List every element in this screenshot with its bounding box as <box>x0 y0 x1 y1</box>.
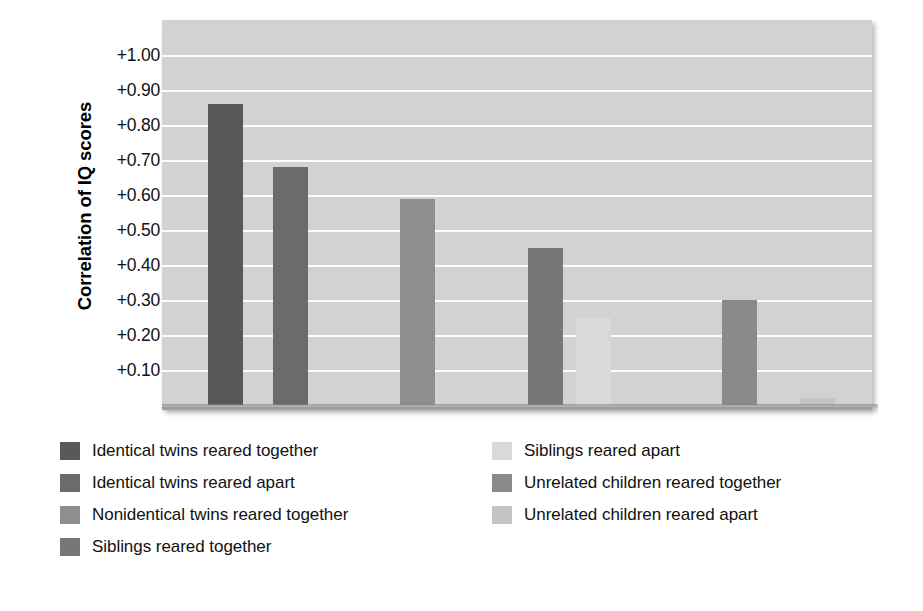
legend-item-label: Siblings reared apart <box>524 441 680 461</box>
legend-item-label: Identical twins reared apart <box>92 473 295 493</box>
legend-item[interactable]: Siblings reared apart <box>492 436 781 466</box>
y-tick-label: +0.80 <box>92 115 160 136</box>
bar[interactable] <box>273 167 308 405</box>
y-tick-label: +0.70 <box>92 150 160 171</box>
chart-legend: Identical twins reared togetherIdentical… <box>60 436 900 576</box>
y-tick-label: +0.50 <box>92 220 160 241</box>
gridline <box>162 195 872 197</box>
bar[interactable] <box>528 248 563 406</box>
legend-color-swatch-icon <box>492 506 512 524</box>
gridline <box>162 335 872 337</box>
legend-color-swatch-icon <box>60 442 80 460</box>
plot-area <box>162 20 872 410</box>
legend-item-label: Unrelated children reared apart <box>524 505 758 525</box>
legend-item[interactable]: Identical twins reared apart <box>60 468 348 498</box>
y-tick-label: +0.30 <box>92 290 160 311</box>
legend-item[interactable]: Unrelated children reared apart <box>492 500 781 530</box>
gridline <box>162 300 872 302</box>
y-tick-label: +0.60 <box>92 185 160 206</box>
legend-item[interactable]: Unrelated children reared together <box>492 468 781 498</box>
legend-item[interactable]: Identical twins reared together <box>60 436 348 466</box>
bar[interactable] <box>400 199 435 406</box>
plot-drop-shadow <box>162 404 878 413</box>
iq-correlation-bar-chart: Correlation of IQ scores +1.00+0.90+0.80… <box>0 0 923 611</box>
gridline <box>162 90 872 92</box>
bar[interactable] <box>208 104 243 405</box>
legend-column-left: Identical twins reared togetherIdentical… <box>60 436 348 564</box>
legend-item[interactable]: Siblings reared together <box>60 532 348 562</box>
gridline <box>162 55 872 57</box>
gridline <box>162 160 872 162</box>
y-tick-label: +0.40 <box>92 255 160 276</box>
y-tick-label: +0.20 <box>92 325 160 346</box>
legend-item-label: Siblings reared together <box>92 537 271 557</box>
y-tick-label: +0.90 <box>92 80 160 101</box>
legend-color-swatch-icon <box>60 506 80 524</box>
legend-color-swatch-icon <box>60 474 80 492</box>
legend-item-label: Identical twins reared together <box>92 441 318 461</box>
legend-color-swatch-icon <box>492 474 512 492</box>
bar[interactable] <box>576 318 611 406</box>
legend-item[interactable]: Nonidentical twins reared together <box>60 500 348 530</box>
legend-color-swatch-icon <box>492 442 512 460</box>
gridline <box>162 230 872 232</box>
y-tick-label: +1.00 <box>92 45 160 66</box>
y-axis-tick-labels: +1.00+0.90+0.80+0.70+0.60+0.50+0.40+0.30… <box>92 20 160 410</box>
gridline <box>162 125 872 127</box>
legend-color-swatch-icon <box>60 538 80 556</box>
bar[interactable] <box>722 300 757 405</box>
legend-item-label: Unrelated children reared together <box>524 473 781 493</box>
legend-column-right: Siblings reared apartUnrelated children … <box>492 436 781 532</box>
legend-item-label: Nonidentical twins reared together <box>92 505 348 525</box>
y-tick-label: +0.10 <box>92 360 160 381</box>
gridline <box>162 265 872 267</box>
gridline <box>162 370 872 372</box>
